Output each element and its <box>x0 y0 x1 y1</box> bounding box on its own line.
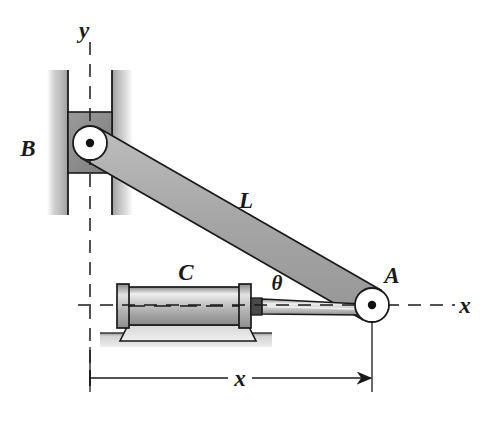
label-point-a: A <box>382 263 399 288</box>
pivot-a <box>355 288 389 322</box>
mechanism-diagram: y x B A L C θ x <box>0 0 498 421</box>
hydraulic-cylinder-c <box>117 284 262 341</box>
label-dimension-x: x <box>233 366 246 391</box>
label-link-l: L <box>238 188 253 213</box>
label-axis-x: x <box>458 293 471 318</box>
label-axis-y: y <box>76 18 90 43</box>
label-point-b: B <box>19 136 35 161</box>
label-cylinder-c: C <box>178 260 194 285</box>
pivot-b <box>73 126 107 160</box>
figure-root: y x B A L C θ x <box>0 0 498 421</box>
label-angle-theta: θ <box>272 271 283 295</box>
